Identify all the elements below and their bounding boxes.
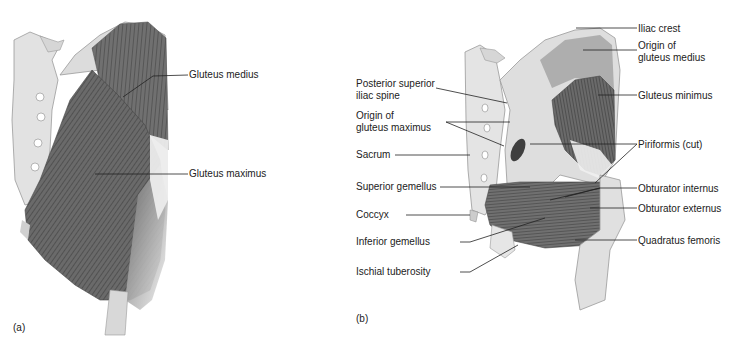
label-piriformis-cut: Piriformis (cut) bbox=[638, 139, 702, 151]
panel-a-illustration bbox=[12, 22, 168, 335]
label-quadratus-femoris: Quadratus femoris bbox=[638, 235, 720, 247]
anatomy-illustration bbox=[0, 0, 735, 348]
label-gluteus-medius-a: Gluteus medius bbox=[189, 69, 258, 81]
panel-a-tag: (a) bbox=[13, 322, 25, 333]
panel-b-tag: (b) bbox=[356, 313, 368, 324]
label-sacrum: Sacrum bbox=[356, 149, 390, 161]
label-superior-gemellus: Superior gemellus bbox=[356, 181, 437, 193]
label-gluteus-maximus: Gluteus maximus bbox=[189, 168, 266, 180]
label-origin-gluteus-medius: Origin of gluteus medius bbox=[638, 40, 705, 63]
label-iliac-crest: Iliac crest bbox=[638, 23, 680, 35]
panel-b-illustration bbox=[465, 28, 625, 310]
label-coccyx: Coccyx bbox=[356, 209, 389, 221]
label-obturator-internus: Obturator internus bbox=[638, 183, 719, 195]
label-gluteus-minimus: Gluteus minimus bbox=[638, 90, 712, 102]
label-origin-gluteus-maximus: Origin of gluteus maximus bbox=[356, 110, 431, 133]
gluteal-muscles-figure: Gluteus medius Gluteus maximus (a) Poste… bbox=[0, 0, 735, 348]
label-posterior-superior-iliac-spine: Posterior superior iliac spine bbox=[356, 78, 435, 101]
label-inferior-gemellus: Inferior gemellus bbox=[356, 236, 430, 248]
label-obturator-externus: Obturator externus bbox=[638, 203, 721, 215]
label-ischial-tuberosity: Ischial tuberosity bbox=[356, 266, 430, 278]
